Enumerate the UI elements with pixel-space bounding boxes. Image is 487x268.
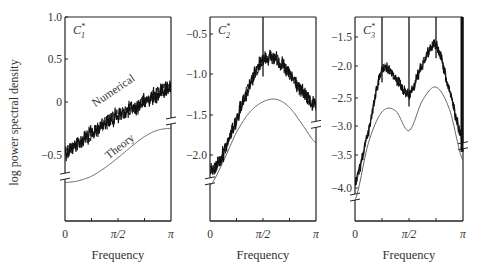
panel-label: C1* [73, 22, 85, 40]
panel-c1: 1.00.50−0.50π/2πFrequencyC1*NumericalThe… [41, 11, 176, 262]
y-tick-label: −3.5 [331, 149, 352, 161]
y-tick-label: −2.0 [186, 149, 207, 161]
figure-canvas: 1.00.50−0.50π/2πFrequencyC1*NumericalThe… [0, 0, 487, 268]
x-tick-label: π [460, 228, 467, 240]
x-tick-label: 0 [352, 228, 358, 240]
x-tick-label: 0 [62, 228, 68, 240]
theory-curve [210, 99, 316, 186]
y-tick-label: 0.5 [48, 53, 63, 65]
x-axis-label: Frequency [92, 248, 146, 262]
panel-c3: −1.5−2.0−2.5−3.0−3.5−4.00π/2πFrequencyC3… [331, 17, 468, 262]
x-tick-label: π/2 [111, 228, 126, 240]
y-tick-label: −0.5 [41, 149, 62, 161]
x-tick-label: π/2 [256, 228, 271, 240]
annotation-numerical: Numerical [90, 72, 137, 109]
x-tick-label: 0 [207, 228, 213, 240]
panel-c2: −0.5−1.0−1.5−2.00π/2πFrequencyC2* [186, 17, 321, 262]
x-tick-label: π [168, 228, 175, 240]
y-tick-label: −4.0 [331, 182, 352, 194]
y-tick-label: −3.0 [331, 120, 352, 132]
x-axis-label: Frequency [237, 248, 291, 262]
y-tick-label: 1.0 [48, 11, 63, 23]
y-tick-label: −1.0 [186, 68, 207, 80]
y-tick-label: −1.5 [331, 31, 352, 43]
y-tick-label: 0 [56, 96, 62, 108]
x-tick-label: π [313, 228, 320, 240]
y-tick-label: −2.5 [331, 92, 352, 104]
y-tick-label: −0.5 [186, 28, 207, 40]
x-axis-label: Frequency [383, 248, 437, 262]
y-tick-label: −2.0 [331, 60, 352, 72]
x-tick-label: π/2 [402, 228, 417, 240]
panel-label: C2* [218, 22, 230, 40]
y-tick-label: −1.5 [186, 109, 207, 121]
panel-label: C3* [363, 22, 375, 40]
